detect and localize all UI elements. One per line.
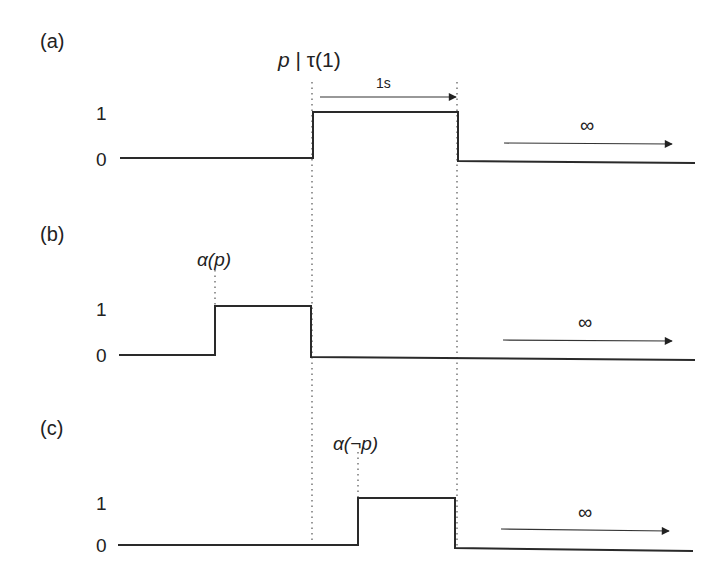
- alpha-argument: (¬p): [344, 433, 378, 454]
- signal-trace-a: [120, 112, 695, 163]
- infinity-label: ∞: [578, 501, 592, 523]
- axis-low-label: 0: [96, 535, 107, 556]
- infinity-label: ∞: [580, 114, 594, 136]
- panel-b: (b) 1 0 α(p) ∞: [40, 223, 695, 366]
- axis-low-label: 0: [96, 345, 107, 366]
- timing-diagram: (a) 1 0 p | τ(1) 1s ∞ (b) 1 0 α(p) ∞ (c)…: [0, 0, 726, 583]
- panel-label-a: (a): [40, 30, 64, 52]
- axis-high-label: 1: [96, 103, 107, 124]
- axis-low-label: 0: [96, 149, 107, 170]
- axis-high-label: 1: [96, 493, 107, 514]
- infinity-arrow: [501, 529, 669, 531]
- panel-a: (a) 1 0 p | τ(1) 1s ∞: [40, 30, 695, 170]
- event-label-tau: τ(1): [307, 48, 341, 71]
- signal-trace-c: [118, 498, 693, 551]
- panel-label-c: (c): [40, 417, 63, 439]
- panel-label-b: (b): [40, 223, 64, 245]
- event-label-sep: |: [290, 48, 307, 71]
- panel-c: (c) 1 0 α(¬p) ∞: [40, 417, 693, 556]
- event-label-alpha-not-p: α(¬p): [333, 433, 378, 454]
- event-label-alpha-p: α(p): [197, 249, 231, 270]
- infinity-arrow: [503, 340, 672, 341]
- event-label-p: p: [277, 48, 290, 71]
- alpha-argument: (p): [208, 249, 231, 270]
- duration-label: 1s: [376, 75, 391, 91]
- event-label-p-tau: p | τ(1): [277, 48, 341, 71]
- axis-high-label: 1: [96, 299, 107, 320]
- signal-trace-b: [119, 306, 695, 360]
- infinity-label: ∞: [578, 311, 592, 333]
- infinity-arrow: [504, 143, 672, 144]
